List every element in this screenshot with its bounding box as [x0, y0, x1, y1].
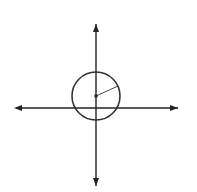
radius-line — [96, 86, 118, 96]
x-axis-arrow-right-icon — [170, 105, 178, 111]
coordinate-plane — [0, 0, 197, 192]
y-axis-arrow-down-icon — [93, 178, 99, 186]
x-axis-arrow-left-icon — [14, 105, 22, 111]
y-axis — [93, 24, 99, 186]
y-axis-arrow-up-icon — [93, 24, 99, 32]
center-point — [94, 94, 98, 98]
